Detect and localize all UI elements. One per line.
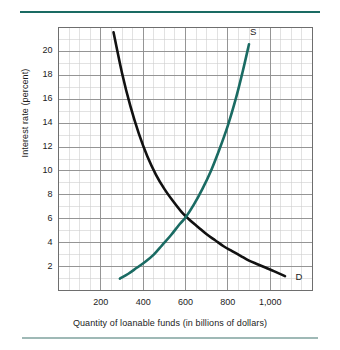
y-tick-label: 12 — [27, 141, 53, 151]
y-axis-title: Interest rate (percent) — [20, 33, 30, 193]
y-tick-label: 4 — [27, 237, 53, 247]
y-tick-label: 18 — [27, 69, 53, 79]
y-tick-label: 14 — [27, 117, 53, 127]
curve-label-s: S — [250, 26, 256, 37]
x-tick-label: 400 — [123, 297, 163, 307]
x-axis-title: Quantity of loanable funds (in billions … — [0, 318, 340, 328]
y-tick-label: 16 — [27, 93, 53, 103]
x-tick-label: 800 — [208, 297, 248, 307]
y-tick-label: 2 — [27, 261, 53, 271]
y-tick-label: 8 — [27, 189, 53, 199]
loanable-funds-chart: 24681012141618202004006008001,000DS — [0, 0, 340, 350]
figure-container: 24681012141618202004006008001,000DS Inte… — [0, 0, 340, 350]
y-tick-label: 20 — [27, 45, 53, 55]
x-tick-label: 1,000 — [250, 297, 290, 307]
x-tick-label: 200 — [81, 297, 121, 307]
curve-label-d: D — [296, 271, 303, 282]
x-tick-label: 600 — [166, 297, 206, 307]
y-tick-label: 6 — [27, 213, 53, 223]
y-tick-label: 10 — [27, 165, 53, 175]
